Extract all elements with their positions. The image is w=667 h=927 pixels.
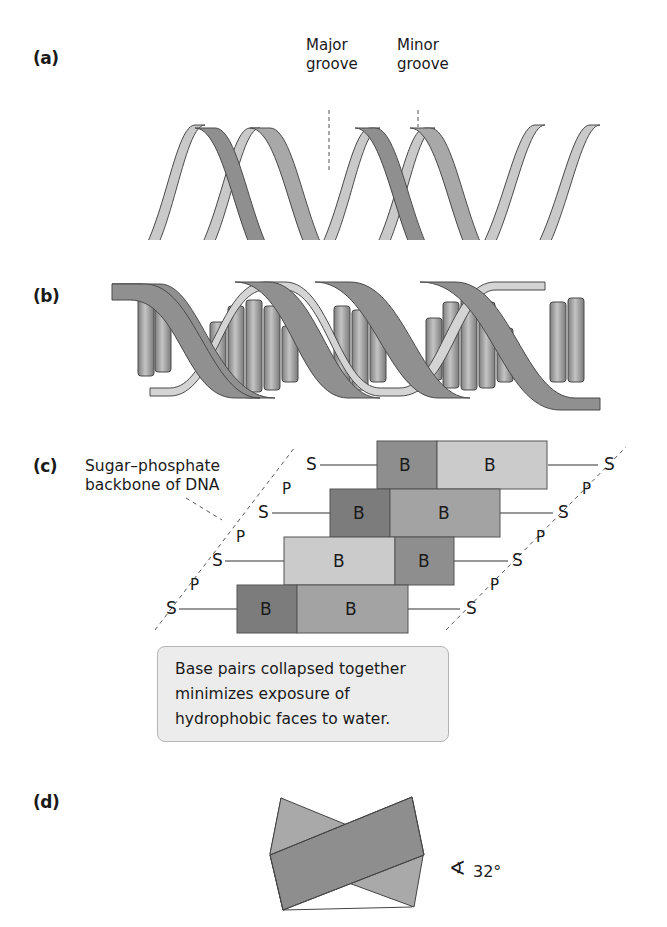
twist-angle-diagram [0, 0, 667, 927]
angle-icon: ∢ [449, 859, 466, 878]
angle-value: 32° [473, 862, 501, 881]
